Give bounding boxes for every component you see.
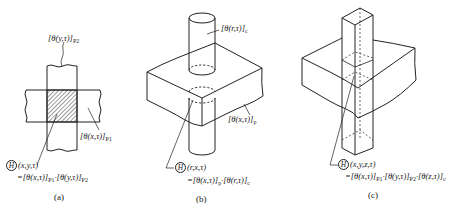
panel-b-drawing [147, 13, 263, 168]
formula-a: =[θ(x,τ)]P1·[θ(y,τ)]P2 [17, 173, 88, 183]
intersection-label-b: H(r,x,τ) [175, 162, 206, 173]
caption-c: (c) [368, 190, 378, 200]
H-circled-icon: H [175, 162, 186, 173]
H-circled-icon: H [6, 160, 17, 171]
slab-plate-c [302, 38, 415, 58]
panel-c-drawing [302, 8, 416, 165]
H-circled-icon: H [338, 159, 349, 170]
cylinder-column [189, 13, 215, 23]
label-side-strip-a: [θ(x,τ)]P1 [80, 132, 112, 142]
intersection-hatched [47, 90, 77, 122]
label-plate-b: [θ(x,τ)]p [228, 115, 256, 125]
intersection-label-a: H(x,y,τ) [6, 160, 38, 171]
label-top-strip-a: [θ(y,τ)]P2 [48, 34, 79, 44]
square-column [342, 8, 373, 25]
formula-c: =[θ(x,τ)]P1·[θ(y,τ)]P2·[θ(z,τ)]c [345, 172, 446, 182]
caption-b: (b) [196, 194, 207, 204]
panel-a-drawing [25, 42, 101, 165]
slab-plate [147, 43, 262, 72]
intersection-label-c: H(x,y,z,τ) [338, 159, 375, 170]
formula-b: =[θ(x,τ)]p·[θ(r,τ)]c [187, 176, 250, 186]
caption-a: (a) [54, 192, 64, 202]
label-cylinder-b: [θ(r,τ)]c [221, 24, 248, 34]
